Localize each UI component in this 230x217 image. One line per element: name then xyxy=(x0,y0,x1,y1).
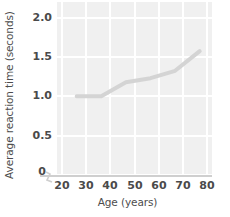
chart-figure: Average reaction time (seconds) 2.0 1.5 … xyxy=(0,0,230,217)
x-tick-label: 30 xyxy=(73,179,99,192)
y-tick-label: 1.5 xyxy=(18,51,52,62)
x-tick-label: 40 xyxy=(97,179,123,192)
x-axis-line xyxy=(40,175,212,177)
x-axis-title: Age (years) xyxy=(40,196,215,208)
x-tick-label: 80 xyxy=(194,179,220,192)
data-series-line xyxy=(57,2,212,174)
x-tick-label: 60 xyxy=(146,179,172,192)
y-axis-title: Average reaction time (seconds) xyxy=(1,2,17,188)
y-tick-label: 2.0 xyxy=(18,12,52,23)
y-tick-label: 0.5 xyxy=(18,130,52,141)
x-axis-tick-labels: 20 30 40 50 60 70 80 xyxy=(0,179,230,193)
x-tick-label: 50 xyxy=(122,179,148,192)
y-tick-label: 1.0 xyxy=(18,90,52,101)
plot-panel xyxy=(57,2,212,174)
x-tick-label: 70 xyxy=(170,179,196,192)
x-tick-label: 20 xyxy=(49,179,75,192)
